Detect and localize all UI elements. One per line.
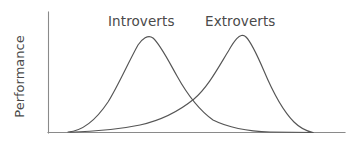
y-axis-label-wrapper: Performance [0,0,40,147]
y-axis-label: Performance [13,27,26,127]
extroverts-curve [70,35,313,132]
series-label-introverts: Introverts [108,15,175,29]
chart-container: Performance Introverts Extroverts [0,0,349,147]
introverts-curve [68,37,313,133]
series-label-extroverts: Extroverts [205,15,276,29]
